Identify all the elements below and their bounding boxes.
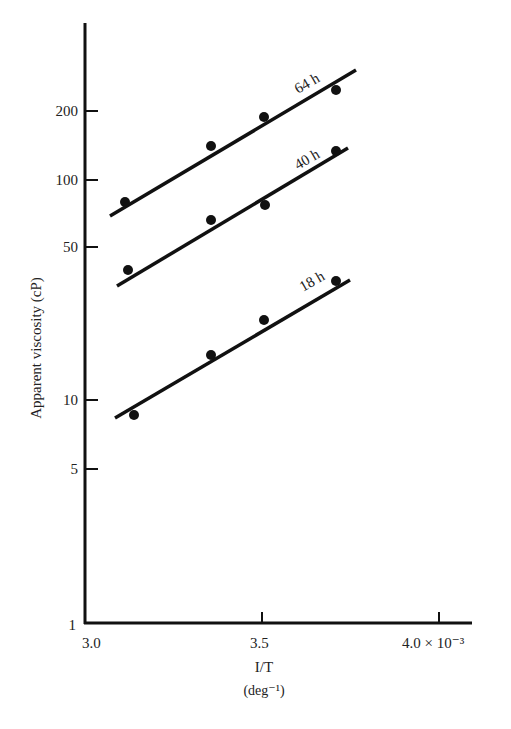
y-tick-label-100: 100 <box>56 172 79 188</box>
data-point <box>260 200 270 210</box>
data-point <box>120 197 130 207</box>
fit-line-64h <box>110 70 356 216</box>
data-point <box>206 350 216 360</box>
fit-line-18h <box>115 280 350 418</box>
x-tick-label-3.0: 3.0 <box>82 635 101 651</box>
data-point <box>331 85 341 95</box>
y-tick-label-200: 200 <box>56 103 79 119</box>
series-label-18h: 18 h <box>297 267 328 294</box>
x-ticks <box>262 612 439 623</box>
y-tick-label-5: 5 <box>71 461 79 477</box>
x-axis-units: (deg⁻¹) <box>243 683 284 699</box>
y-axis-label: Apparent viscosity (cP) <box>28 277 45 419</box>
data-point <box>259 315 269 325</box>
viscosity-chart: 200 100 50 10 5 1 3.0 3.5 4.0 × 10⁻³ I/T… <box>0 0 511 729</box>
data-point <box>331 276 341 286</box>
y-tick-label-1: 1 <box>69 617 77 633</box>
x-axis-label: I/T <box>255 659 273 675</box>
y-ticks <box>85 111 98 469</box>
series-label-40h: 40 h <box>292 145 323 172</box>
data-point <box>129 410 139 420</box>
x-tick-label-3.5: 3.5 <box>250 635 269 651</box>
data-point <box>259 112 269 122</box>
y-tick-label-10: 10 <box>63 392 78 408</box>
data-point <box>123 265 133 275</box>
fit-line-40h <box>117 148 348 286</box>
x-tick-label-4.0: 4.0 × 10⁻³ <box>402 635 465 651</box>
y-tick-label-50: 50 <box>63 239 78 255</box>
data-point <box>206 215 216 225</box>
data-point <box>331 146 341 156</box>
data-point <box>206 141 216 151</box>
